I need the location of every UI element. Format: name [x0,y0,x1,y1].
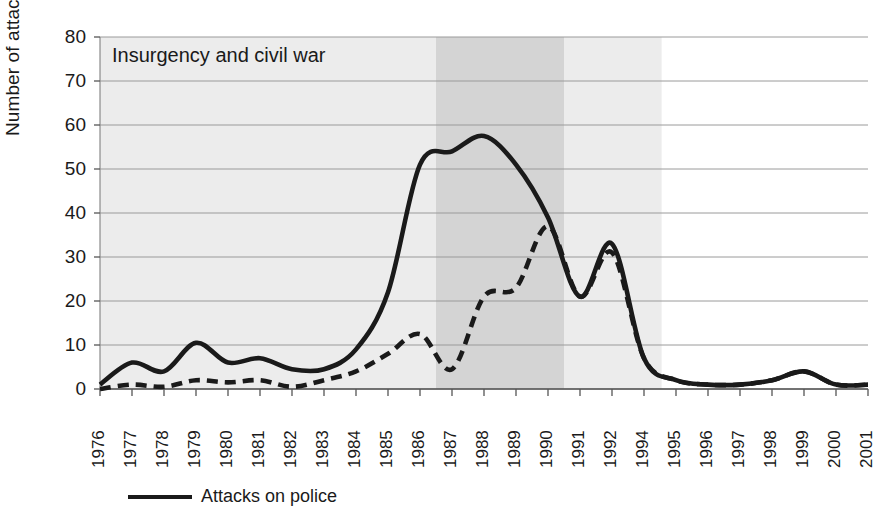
x-axis-tick-label: 1978 [154,430,171,468]
x-axis-tick-label: 2001 [858,430,875,468]
x-axis-tick-label: 1981 [250,430,267,468]
x-axis-tick-label: 1976 [90,430,107,468]
x-axis-tick-label: 1983 [314,430,331,468]
x-axis-tick-label: 1982 [282,430,299,468]
x-axis-tick-label: 1990 [538,430,555,468]
x-axis-tick-label: 1987 [442,430,459,468]
x-axis-tick-label: 1984 [346,430,363,468]
x-axis-tick-label: 1985 [378,430,395,468]
x-axis-tick-label: 1991 [570,430,587,468]
x-axis-tick-label: 1979 [186,430,203,468]
insurgency-annotation: Insurgency and civil war [112,44,325,67]
x-axis-tick-label: 1992 [602,430,619,468]
x-axis-tick-label: 1989 [506,430,523,468]
x-axis-tick-label: 1999 [794,430,811,468]
legend-line-swatch-attacks-on-police [128,495,192,499]
chart-container: Number of attacks 80706050403020100 Insu… [0,0,891,526]
x-axis-tick-label: 1988 [474,430,491,468]
x-axis-tick-label: 1995 [666,430,683,468]
x-axis-tick-label: 1980 [218,430,235,468]
x-axis-tick-label: 1996 [698,430,715,468]
plot-background-group [94,37,868,396]
x-axis-tick-label: 1977 [122,430,139,468]
chart-legend: Attacks on police [128,486,337,507]
x-axis-tick-label: 1986 [410,430,427,468]
legend-label-attacks-on-police: Attacks on police [201,486,337,507]
x-axis-tick-label: 1998 [762,430,779,468]
x-axis-tick-label: 2000 [826,430,843,468]
x-axis-tick-labels: 1976197719781979198019811982198319841985… [0,396,891,476]
x-axis-tick-label: 1994 [634,430,651,468]
x-axis-tick-label: 1997 [730,430,747,468]
